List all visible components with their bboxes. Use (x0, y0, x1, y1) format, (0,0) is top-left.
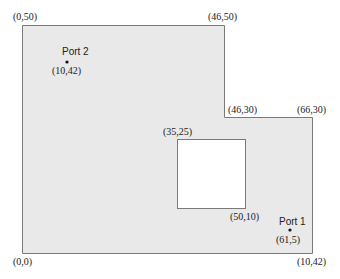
corner-label-bottom-right: (10,42) (297, 257, 326, 267)
hole-label-bottom-right: (50,10) (230, 212, 259, 222)
port-1-dot-icon (288, 228, 291, 231)
corner-label-bottom-left: (0,0) (13, 257, 32, 267)
corner-label-step-outer: (66,30) (297, 105, 326, 115)
port-2-dot-icon (65, 60, 68, 63)
port-2-label: Port 2 (62, 47, 89, 57)
outer-polygon (23, 26, 313, 254)
port-1-coord: (61,5) (276, 235, 300, 245)
port-1-label: Port 1 (279, 217, 306, 227)
corner-label-step-inner: (46,30) (228, 105, 257, 115)
hole-rectangle (178, 140, 246, 209)
corner-label-top-left: (0,50) (13, 12, 37, 22)
corner-label-top-notch: (46,50) (208, 12, 237, 22)
port-2-coord: (10,42) (52, 66, 81, 76)
geometry-diagram: (0,50) (46,50) (46,30) (66,30) (0,0) (10… (0, 0, 340, 279)
hole-label-top-left: (35,25) (163, 127, 192, 137)
